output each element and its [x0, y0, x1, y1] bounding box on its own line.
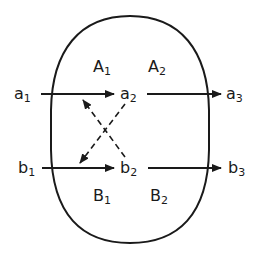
- region-label-A2: A2: [148, 57, 166, 78]
- dashed-arrow-a2-to-lower: [80, 104, 125, 163]
- node-label-b2: b2: [120, 158, 137, 179]
- region-label-A1: A1: [93, 57, 111, 78]
- region-label-B1: B1: [93, 186, 111, 207]
- node-label-b1: b1: [18, 158, 35, 179]
- node-label-b3: b3: [228, 158, 245, 179]
- region-label-B2: B2: [150, 186, 168, 207]
- boundary-oval: [51, 16, 209, 243]
- flow-diagram: A1 A2 B1 B2 a1 a2 a3 b1 b2 b3: [0, 0, 260, 257]
- node-label-a3: a3: [226, 84, 243, 105]
- node-label-a1: a1: [14, 84, 31, 105]
- node-label-a2: a2: [120, 84, 137, 105]
- dashed-arrow-b2-to-upper: [83, 100, 125, 157]
